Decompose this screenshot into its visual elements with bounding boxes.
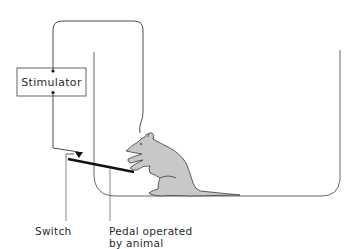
rat-illustration bbox=[126, 133, 240, 196]
stimulator-label: Stimulator bbox=[17, 68, 86, 96]
pedal-label-line1: Pedal operated bbox=[109, 225, 193, 237]
switch-wire bbox=[53, 93, 79, 153]
rat-eye bbox=[140, 143, 142, 145]
pedal-label-line2: by animal bbox=[109, 237, 164, 249]
rat-body bbox=[126, 134, 240, 196]
switch-label: Switch bbox=[35, 225, 72, 237]
switch-contact bbox=[66, 154, 74, 157]
pedal-bar bbox=[68, 159, 134, 172]
switch-triangle bbox=[75, 152, 83, 158]
cage-left-wall bbox=[94, 50, 340, 196]
